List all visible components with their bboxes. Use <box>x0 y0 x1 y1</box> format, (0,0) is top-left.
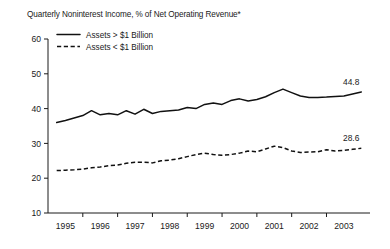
x-tick-label: 1998 <box>160 221 179 231</box>
x-tick-label: 1996 <box>91 221 110 231</box>
y-tick-label: 10 <box>31 208 41 218</box>
chart-background <box>0 0 390 249</box>
legend-label-assets-under-1b: Assets < $1 Billion <box>86 43 154 52</box>
y-tick-label: 60 <box>31 34 41 44</box>
y-tick-label: 40 <box>31 104 41 114</box>
y-tick-label: 20 <box>31 173 41 183</box>
x-tick-label: 2000 <box>230 221 249 231</box>
series-end-label-assets-under-1b: 28.6 <box>343 133 360 143</box>
x-tick-label: 2002 <box>300 221 319 231</box>
x-tick-label: 1999 <box>195 221 214 231</box>
y-tick-label: 30 <box>31 139 41 149</box>
series-end-label-assets-over-1b: 44.8 <box>343 77 360 87</box>
x-tick-label: 2003 <box>334 221 353 231</box>
y-tick-label: 50 <box>31 69 41 79</box>
x-tick-label: 1995 <box>56 221 75 231</box>
chart-title: Quarterly Noninterest Income, % of Net O… <box>27 10 242 19</box>
legend-label-assets-over-1b: Assets > $1 Billion <box>86 31 154 40</box>
chart-figure: Quarterly Noninterest Income, % of Net O… <box>0 0 390 249</box>
x-tick-label: 1997 <box>125 221 144 231</box>
x-tick-label: 2001 <box>265 221 284 231</box>
